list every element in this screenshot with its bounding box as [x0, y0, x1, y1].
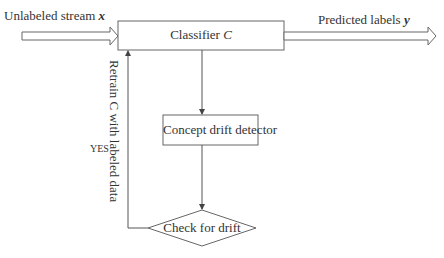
decision-label: Check for drift	[148, 220, 256, 236]
output-label: Predicted labels y	[318, 12, 410, 28]
feedback-label: Retrain C with labeled data	[106, 60, 122, 202]
detector-label: Concept drift detector	[163, 122, 258, 138]
yes-label: YES	[90, 143, 109, 154]
classifier-label: Classifier C	[118, 27, 284, 43]
input-label: Unlabeled stream x	[4, 8, 105, 24]
output-arrow	[284, 27, 436, 45]
feedback-loop-arrow	[128, 51, 148, 228]
input-arrow	[22, 27, 118, 45]
